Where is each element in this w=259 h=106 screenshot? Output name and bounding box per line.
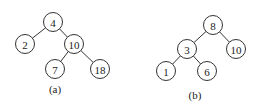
edge-4-2: [32, 28, 45, 38]
edge-3-6: [193, 56, 200, 64]
edge-4-10: [60, 29, 68, 37]
edge-10-7: [61, 52, 69, 62]
node-label: 4: [50, 17, 56, 29]
tree-node: 4: [44, 13, 63, 32]
node-label: 1: [163, 66, 169, 78]
node-label: 7: [52, 64, 58, 76]
tree-node: 10: [65, 35, 84, 54]
tree-b: 831016(b): [157, 16, 246, 103]
tree-node: 18: [91, 60, 110, 79]
tree-node: 10: [227, 40, 246, 59]
tree-node: 2: [16, 35, 35, 54]
node-label: 18: [95, 64, 107, 76]
tree-caption: (b): [189, 89, 202, 102]
tree-node: 3: [178, 40, 197, 59]
tree-node: 1: [157, 62, 176, 81]
binary-trees-diagram: 4210718(a)831016(b): [0, 0, 259, 106]
node-label: 2: [22, 39, 28, 51]
tree-caption: (a): [49, 83, 62, 96]
tree-node: 8: [204, 16, 223, 35]
edge-8-10: [220, 32, 230, 42]
node-label: 3: [184, 44, 190, 56]
tree-node: 6: [198, 62, 217, 81]
node-label: 8: [210, 20, 216, 32]
edge-10-18: [81, 51, 93, 63]
edge-3-1: [173, 56, 181, 64]
node-label: 10: [69, 39, 81, 51]
edge-8-3: [194, 31, 206, 42]
node-label: 6: [204, 66, 210, 78]
tree-node: 7: [46, 60, 65, 79]
node-label: 10: [231, 44, 243, 56]
tree-a: 4210718(a): [16, 13, 110, 97]
